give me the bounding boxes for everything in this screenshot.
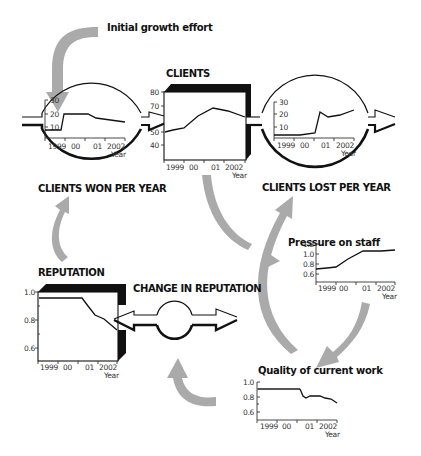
svg-text:Year: Year [340,149,357,158]
label-clients: CLIENTS [166,68,210,79]
svg-text:30: 30 [279,98,288,107]
svg-text:20: 20 [279,110,288,119]
svg-text:00: 00 [189,163,198,172]
svg-text:1999: 1999 [318,284,336,293]
svg-text:1999: 1999 [166,163,184,172]
svg-text:0.8: 0.8 [243,393,255,402]
svg-text:20: 20 [50,110,59,119]
svg-text:00: 00 [300,141,309,150]
svg-text:Year: Year [103,371,120,380]
svg-text:1999: 1999 [260,422,278,431]
label-clients-won: CLIENTS WON PER YEAR [38,183,167,194]
svg-text:01: 01 [362,284,371,293]
svg-text:1.2: 1.2 [303,240,315,249]
svg-text:01: 01 [211,163,220,172]
svg-text:Year: Year [324,430,341,439]
svg-text:1.0: 1.0 [24,288,36,297]
svg-text:70: 70 [150,102,159,111]
svg-text:00: 00 [63,363,72,372]
pressure-on-staff-chart: 1.2 1.0 0.8 0.6 1999 00 01 2002 Year [303,240,398,301]
arrow-quality-to-clients-lost [258,196,298,354]
label-change-in-reputation: CHANGE IN REPUTATION [133,283,261,294]
svg-text:01: 01 [93,142,102,151]
label-quality-of-current-work: Quality of current work [258,365,383,376]
svg-text:1.0: 1.0 [303,250,315,259]
change-in-reputation-valve [114,301,237,339]
clients-won-valve: 30 20 10 1999 00 01 2002 Year [42,83,141,159]
svg-text:Year: Year [231,171,248,180]
svg-text:0.6: 0.6 [243,408,255,417]
svg-text:1999: 1999 [40,363,58,372]
svg-text:01: 01 [85,363,94,372]
label-clients-lost: CLIENTS LOST PER YEAR [262,182,391,193]
svg-text:0.8: 0.8 [24,316,36,325]
svg-text:40: 40 [150,141,159,150]
arrow-quality-to-change-reputation [167,358,216,406]
svg-text:30: 30 [50,96,59,105]
svg-text:0.6: 0.6 [24,344,36,353]
arrow-clients-to-pressure [202,175,252,250]
label-initial-growth-effort: Initial growth effort [107,22,213,33]
reputation-stock: 1.0 0.8 0.6 1999 00 01 2002 Year [24,284,126,380]
svg-text:0.8: 0.8 [303,260,315,269]
svg-text:10: 10 [279,123,288,132]
svg-text:01: 01 [305,422,314,431]
label-reputation: REPUTATION [38,267,104,278]
svg-text:50: 50 [150,128,159,137]
quality-of-current-work-chart: 1.0 0.8 0.6 1999 00 01 2002 Year [243,378,341,439]
arrow-pressure-to-quality [316,302,370,368]
stock-flow-diagram: Initial growth effort CLIENTS CLIENTS WO… [0,0,421,456]
label-pressure-on-staff: Pressure on staff [288,237,381,248]
svg-text:1999: 1999 [277,141,295,150]
svg-text:00: 00 [339,284,348,293]
svg-text:1.0: 1.0 [243,378,255,387]
svg-text:Year: Year [381,292,398,301]
clients-stock: 80 70 50 40 1999 00 01 2002 Year [150,84,251,180]
clients-lost-valve: 30 20 10 1999 00 01 2002 Year [262,75,368,167]
svg-text:01: 01 [321,141,330,150]
svg-text:Year: Year [110,150,127,159]
svg-text:80: 80 [150,88,159,97]
svg-text:00: 00 [282,422,291,431]
svg-text:0.6: 0.6 [303,270,315,279]
svg-text:1999: 1999 [48,142,66,151]
svg-text:00: 00 [71,142,80,151]
arrow-reputation-to-clients-won [52,196,69,262]
